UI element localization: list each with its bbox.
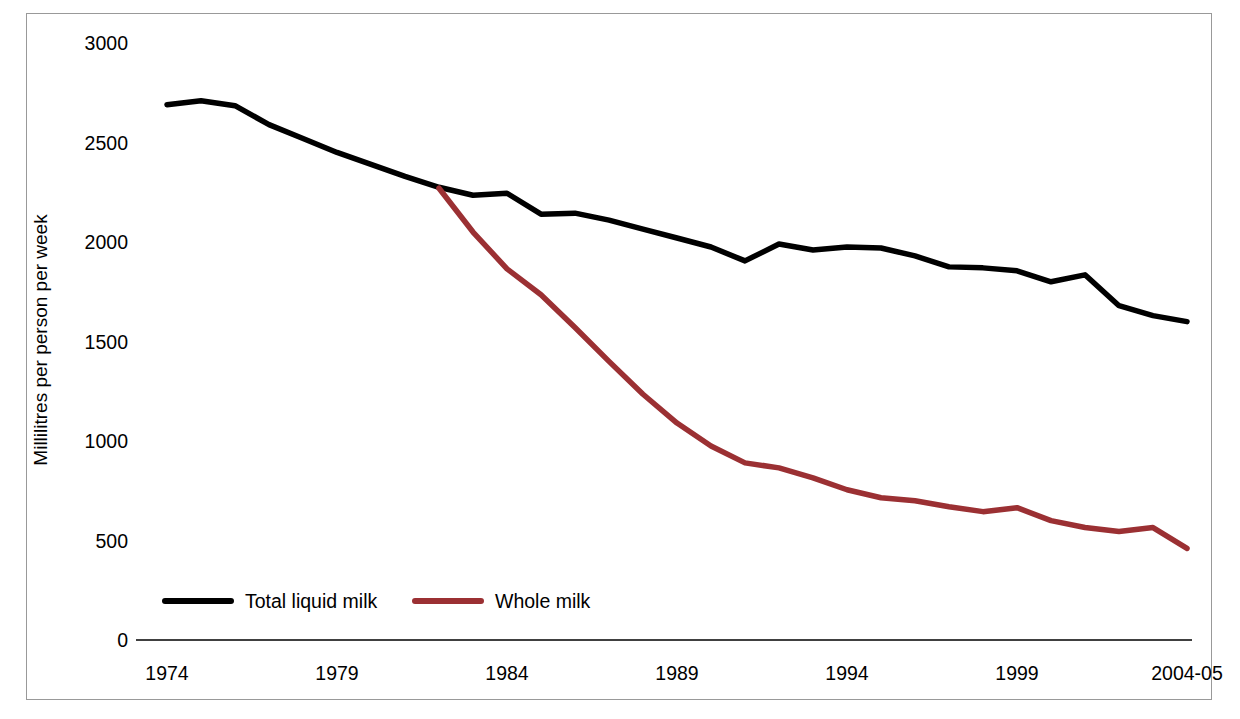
legend-label: Whole milk: [495, 590, 591, 612]
y-tick-label: 1000: [85, 430, 129, 452]
y-tick-label: 2000: [85, 231, 129, 253]
x-tick-label: 1984: [485, 662, 529, 684]
chart-legend: Total liquid milkWhole milk: [165, 590, 591, 612]
x-tick-label: 1979: [315, 662, 358, 684]
x-axis-tick-labels: 1974197919841989199419992004-05: [145, 662, 1223, 684]
y-axis-title: Millilitres per person per week: [30, 214, 51, 466]
y-tick-label: 3000: [85, 32, 129, 54]
y-tick-label: 2500: [85, 132, 129, 154]
chart-svg: 050010001500200025003000 197419791984198…: [0, 0, 1240, 719]
line-chart: 050010001500200025003000 197419791984198…: [0, 0, 1240, 719]
y-axis-tick-labels: 050010001500200025003000: [85, 32, 129, 651]
x-tick-label: 1999: [995, 662, 1038, 684]
y-tick-label: 500: [95, 530, 128, 552]
x-tick-label: 1974: [145, 662, 189, 684]
series-line: [167, 101, 1187, 322]
series-line: [439, 188, 1187, 548]
x-tick-label: 2004-05: [1151, 662, 1223, 684]
series-lines: [167, 101, 1187, 549]
x-tick-label: 1994: [825, 662, 869, 684]
x-tick-label: 1989: [655, 662, 698, 684]
y-tick-label: 1500: [85, 331, 129, 353]
y-tick-label: 0: [117, 629, 128, 651]
legend-label: Total liquid milk: [245, 590, 377, 612]
